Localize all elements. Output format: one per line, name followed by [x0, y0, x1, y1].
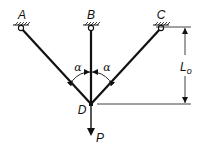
label-B: B: [87, 8, 95, 22]
label-A: A: [17, 8, 26, 22]
angle-label-left: α: [74, 61, 82, 74]
label-C: C: [157, 8, 166, 22]
three-bar-truss-diagram: A B C α α D P Lo: [0, 0, 198, 150]
joint-D: [89, 102, 93, 106]
dimension-label-main: L: [180, 60, 187, 74]
support-C: [153, 22, 170, 31]
load-label-P: P: [96, 131, 104, 145]
dimension-label-subscript: o: [187, 66, 192, 76]
dimension-label: Lo: [180, 60, 192, 76]
angle-label-right: α: [103, 61, 111, 74]
support-A: [13, 22, 30, 31]
support-B: [83, 22, 100, 31]
bar-CD: [91, 28, 161, 104]
label-D: D: [78, 103, 87, 117]
